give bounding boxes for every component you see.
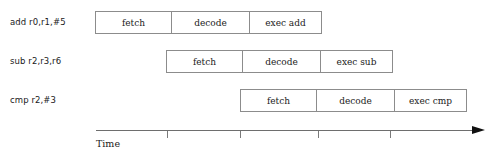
right-arrow-icon	[472, 126, 485, 134]
pipeline-stage-box: decode	[316, 89, 394, 112]
pipeline-row: fetchdecodeexec sub	[166, 50, 393, 73]
pipeline-stage-box: fetch	[95, 11, 171, 34]
time-axis	[96, 130, 485, 131]
time-axis-tick	[390, 131, 391, 138]
pipeline-row: fetchdecodeexec add	[95, 11, 322, 34]
instruction-label: add r0,r1,#5	[10, 17, 66, 27]
pipeline-stage-box: exec cmp	[394, 89, 467, 112]
pipeline-diagram: add r0,r1,#5fetchdecodeexec addsub r2,r3…	[0, 0, 495, 159]
instruction-label: sub r2,r3,r6	[10, 56, 61, 66]
time-axis-line	[96, 130, 474, 131]
time-axis-tick	[167, 131, 168, 138]
time-axis-tick	[240, 131, 241, 138]
pipeline-row: fetchdecodeexec cmp	[240, 89, 467, 112]
pipeline-stage-box: fetch	[166, 50, 242, 73]
pipeline-stage-box: decode	[242, 50, 320, 73]
instruction-label: cmp r2,#3	[10, 95, 56, 105]
pipeline-stage-box: fetch	[240, 89, 316, 112]
pipeline-stage-box: exec sub	[320, 50, 393, 73]
time-axis-label: Time	[96, 138, 120, 149]
pipeline-stage-box: exec add	[249, 11, 322, 34]
time-axis-tick	[318, 131, 319, 138]
pipeline-stage-box: decode	[171, 11, 249, 34]
